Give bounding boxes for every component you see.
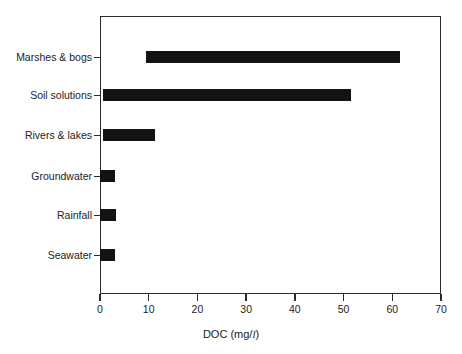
x-axis-tick-label-50: 50 xyxy=(338,303,350,316)
x-axis-title-suffix: ) xyxy=(255,328,259,340)
x-axis-tick-0 xyxy=(99,294,100,301)
category-label-rivers-lakes: Rivers & lakes xyxy=(25,129,92,141)
x-axis-tick-label-40: 40 xyxy=(289,303,301,316)
x-axis-tick-20 xyxy=(197,294,198,301)
bar-marshes-bogs xyxy=(146,51,399,63)
category-label-groundwater: Groundwater xyxy=(31,170,92,182)
bar-rainfall xyxy=(100,209,116,221)
bar-seawater xyxy=(100,249,115,261)
bar-groundwater xyxy=(100,170,115,182)
bar-soil-solutions xyxy=(103,89,351,101)
x-axis-tick-label-30: 30 xyxy=(240,303,252,316)
category-label-seawater: Seawater xyxy=(48,249,92,261)
x-axis-tick-label-70: 70 xyxy=(435,303,447,316)
x-axis-tick-label-60: 60 xyxy=(386,303,398,316)
x-axis-tick-30 xyxy=(245,294,246,301)
x-axis-tick-60 xyxy=(392,294,393,301)
category-label-rainfall: Rainfall xyxy=(57,209,92,221)
x-axis-title-prefix: DOC (mg/ xyxy=(203,328,253,340)
category-label-soil-solutions: Soil solutions xyxy=(30,89,92,101)
x-axis-tick-70 xyxy=(440,294,441,301)
x-axis-tick-40 xyxy=(294,294,295,301)
x-axis-tick-50 xyxy=(343,294,344,301)
bars-layer xyxy=(100,16,441,294)
x-axis-tick-label-10: 10 xyxy=(143,303,155,316)
x-axis-tick-label-0: 0 xyxy=(97,303,103,316)
x-axis-title: DOC (mg/l) xyxy=(0,328,462,340)
category-label-marshes-bogs: Marshes & bogs xyxy=(16,51,92,63)
x-axis-tick-10 xyxy=(148,294,149,301)
bar-rivers-lakes xyxy=(103,129,155,141)
x-axis-tick-label-20: 20 xyxy=(192,303,204,316)
doc-concentration-bar-chart: Marshes & bogs Soil solutions Rivers & l… xyxy=(0,0,462,354)
